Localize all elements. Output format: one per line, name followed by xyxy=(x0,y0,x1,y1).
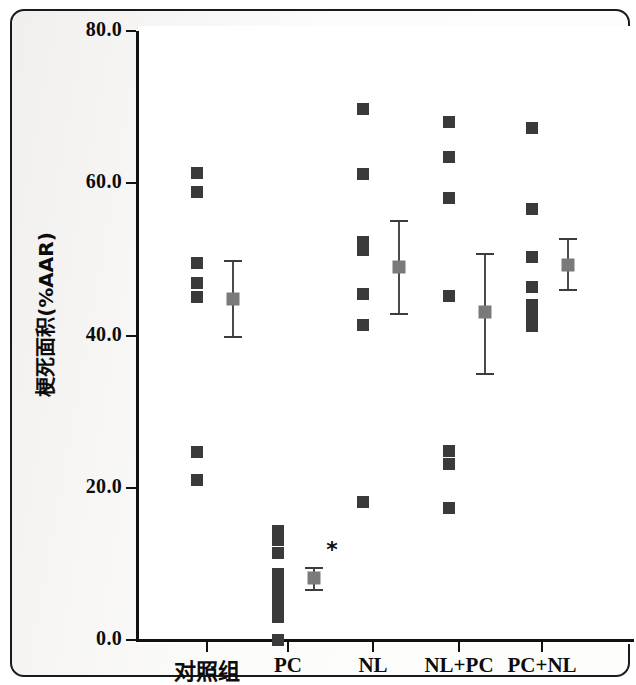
error-bar-cap-lower xyxy=(390,313,408,315)
mean-marker xyxy=(562,258,575,271)
data-point xyxy=(526,320,538,332)
error-bar-cap-upper xyxy=(224,260,242,262)
error-bar-cap-lower xyxy=(305,589,323,591)
data-point xyxy=(526,122,538,134)
mean-marker xyxy=(308,572,321,585)
data-point xyxy=(526,281,538,293)
error-bar-cap-upper xyxy=(476,253,494,255)
data-point xyxy=(526,251,538,263)
error-bar-cap-lower xyxy=(224,336,242,338)
error-bar-cap-lower xyxy=(559,289,577,291)
data-point xyxy=(526,203,538,215)
error-bar-cap-lower xyxy=(476,373,494,375)
error-bar-cap-upper xyxy=(559,238,577,240)
mean-marker xyxy=(227,292,240,305)
error-bar-cap-upper xyxy=(305,567,323,569)
mean-marker xyxy=(479,305,492,318)
mean-marker xyxy=(393,260,406,273)
error-bar-cap-upper xyxy=(390,220,408,222)
